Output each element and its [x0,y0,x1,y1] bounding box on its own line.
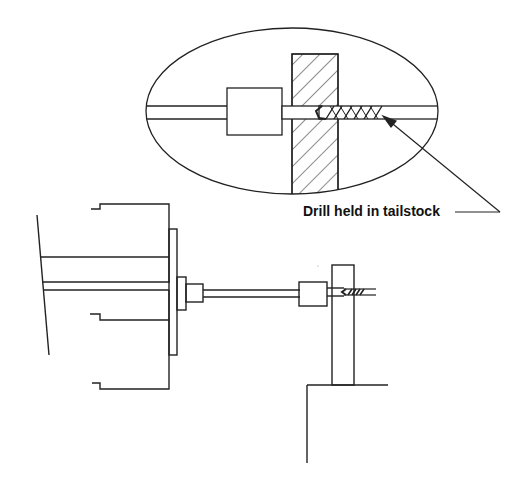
hub [177,277,186,310]
headstock-edge [37,215,49,355]
work-block [299,282,327,306]
inset-block [227,88,282,135]
leader-arrow [383,116,500,212]
lathe-drilling-diagram [0,0,527,488]
inset-drill-bit [316,106,439,119]
lower-jaw-body [92,290,169,389]
detail-inset [140,28,439,204]
inset-workpiece [292,54,338,204]
lower-jaw-top [90,314,169,320]
lathe-main-view [37,204,388,463]
faceplate [169,229,177,355]
drill-annotation-label: Drill held in tailstock [303,203,440,219]
upper-jaw [91,204,169,283]
support-column [332,265,354,385]
collar [186,284,203,302]
